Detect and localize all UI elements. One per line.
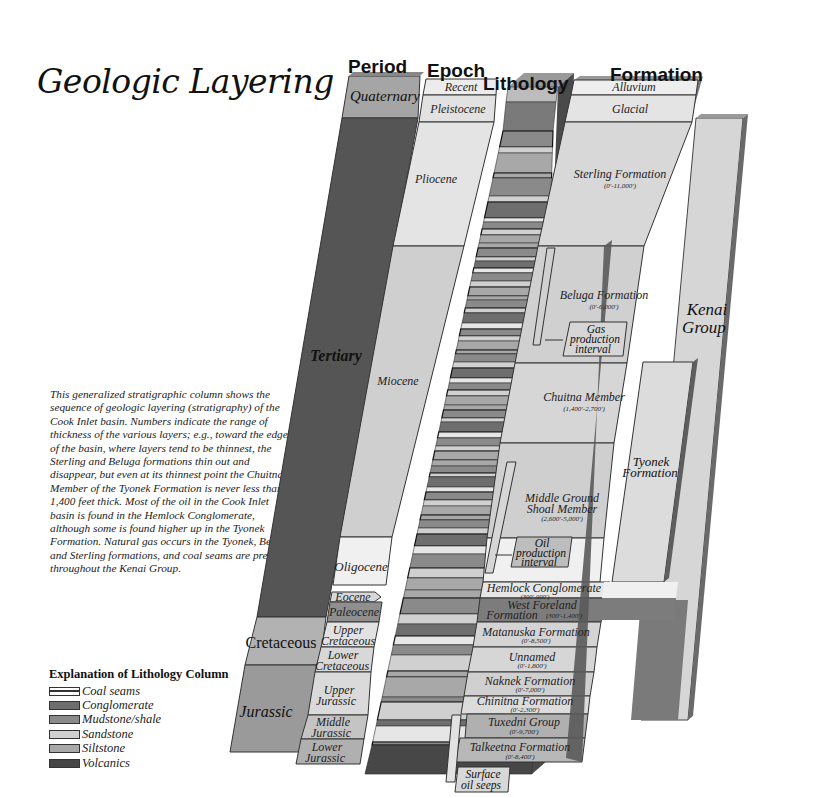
formation-talkeetna: Talkeetna Formation <box>470 740 571 754</box>
formation-talkeetna-range: (0'-8,400') <box>505 753 535 761</box>
kenai-group-label-l1: Kenai <box>686 300 728 319</box>
gas-callout-l3: interval <box>575 343 611 355</box>
epoch-recent: Recent <box>444 80 478 94</box>
header-period: Period <box>348 56 407 77</box>
epoch-lower-cretaceous-l2: Cretaceous <box>315 659 370 673</box>
epoch-oligocene: Oligocene <box>334 559 388 574</box>
formation-beluga: Beluga Formation <box>560 288 648 302</box>
period-jurassic: Jurassic <box>239 703 292 720</box>
stratigraphic-column-diagram: Period Epoch Lithology Formation Quatern… <box>0 0 823 798</box>
formation-mgs-l2: Shoal Member <box>527 502 598 516</box>
epoch-lower-jurassic-l2: Jurassic <box>305 751 346 765</box>
period-quaternary: Quaternary <box>350 88 420 104</box>
epoch-miocene: Miocene <box>376 374 419 388</box>
formation-west-foreland-l2: Formation <box>485 608 537 622</box>
epoch-pliocene: Pliocene <box>414 172 458 186</box>
formation-mgs-range: (2,600'-5,000') <box>541 515 583 523</box>
formation-matanuska-range: (0'-8,500') <box>521 637 551 645</box>
formation-sterling-range: (0'-11,000') <box>604 182 637 190</box>
kenai-group-label-l2: Group <box>682 318 726 337</box>
epoch-paleocene: Paleocene <box>328 605 380 619</box>
formation-chuitna: Chuitna Member <box>543 390 625 404</box>
period-tertiary: Tertiary <box>310 347 363 365</box>
formation-chuitna-range: (1,400'-2,700') <box>563 405 605 413</box>
formation-unnamed-range: (0'-1,800') <box>517 662 547 670</box>
epoch-pleistocene: Pleistocene <box>429 102 486 116</box>
epoch-middle-jurassic-l2: Jurassic <box>311 726 352 740</box>
seeps-callout-l2: oil seeps <box>461 779 501 792</box>
formation-west-foreland-range: (300'-1,400') <box>546 612 583 620</box>
formation-beluga-range: (0'-6,000') <box>589 303 619 311</box>
epoch-eocene: Eocene <box>334 590 371 604</box>
header-lithology: Lithology <box>483 73 569 94</box>
formation-sterling: Sterling Formation <box>574 167 666 181</box>
oil-callout-l3: interval <box>521 556 557 568</box>
header-epoch: Epoch <box>427 60 485 81</box>
formation-naknek-range: (0'-7,000') <box>515 686 545 694</box>
formation-tuxedni: Tuxedni Group <box>488 715 560 729</box>
epoch-upper-jurassic-l2: Jurassic <box>316 694 357 708</box>
formation-tuxedni-range: (0'-9,700') <box>509 728 539 736</box>
formation-glacial: Glacial <box>612 102 649 116</box>
epoch-upper-cretaceous-l2: Cretaceous <box>321 634 376 648</box>
formation-chinitna-range: (0'-2,300') <box>510 706 540 714</box>
period-cretaceous: Cretaceous <box>245 634 316 651</box>
formation-alluvium: Alluvium <box>611 80 656 94</box>
tyonek-label-l2: Formation <box>621 465 678 480</box>
